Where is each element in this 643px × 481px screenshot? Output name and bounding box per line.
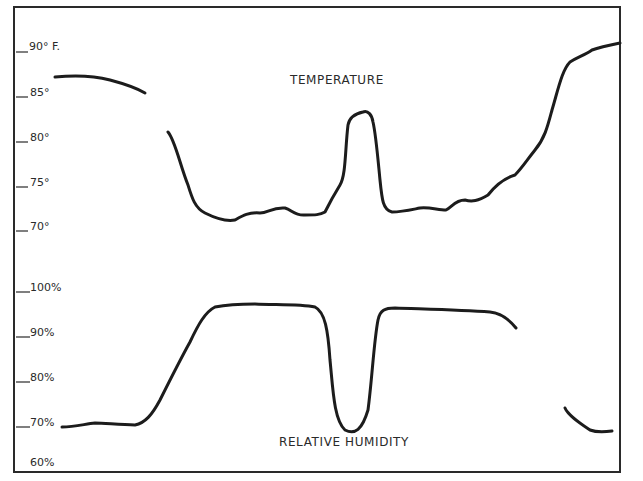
temp-tick-80: 80° [30, 131, 50, 144]
humidity-title: RELATIVE HUMIDITY [279, 435, 409, 449]
humidity-curve-segment-2 [565, 408, 612, 432]
temperature-axis [16, 52, 28, 231]
temp-tick-85: 85° [30, 86, 50, 99]
rh-tick-90: 90% [30, 326, 54, 339]
humidity-axis [16, 292, 30, 427]
humidity-curve-segment-1 [62, 304, 516, 432]
temp-tick-90: 90° F. [29, 40, 60, 53]
rh-tick-100: 100% [30, 281, 61, 294]
temp-tick-75: 75° [30, 176, 50, 189]
rh-tick-60: 60% [30, 456, 54, 469]
temperature-title: TEMPERATURE [289, 73, 384, 87]
rh-tick-80: 80% [30, 371, 54, 384]
temperature-curve-segment-2 [168, 43, 620, 221]
temperature-curve-segment-1 [55, 76, 145, 93]
temp-tick-70: 70° [30, 220, 50, 233]
rh-tick-70: 70% [30, 416, 54, 429]
chart-canvas: 90° F. 85° 80° 75° 70° 100% 90% 80% 70% … [0, 0, 643, 481]
